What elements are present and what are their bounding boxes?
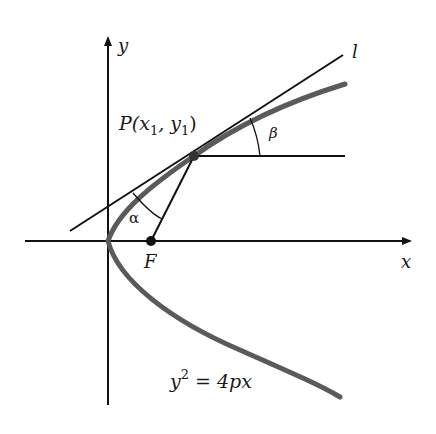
alpha-label: α <box>129 209 139 227</box>
beta-label: β <box>268 124 278 142</box>
focus-point <box>146 236 156 246</box>
point-p-label: P(x1, y1) <box>118 112 197 138</box>
tangent-line-label: l <box>352 41 358 62</box>
equation-label: y2 = 4px <box>169 367 252 392</box>
x-axis-label: x <box>401 251 411 272</box>
point-p <box>189 151 199 161</box>
parabola-diagram: y x l F P(x1, y1) α β y2 = 4px <box>0 0 436 434</box>
y-axis-label: y <box>117 35 129 56</box>
focus-label: F <box>143 251 158 272</box>
tangent-line <box>70 55 343 231</box>
